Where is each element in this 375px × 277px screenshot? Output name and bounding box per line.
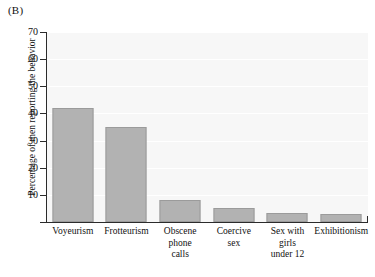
y-axis-tick-label: 30	[0, 136, 38, 146]
bar-slot	[46, 32, 100, 222]
bar[interactable]	[321, 214, 362, 222]
bar[interactable]	[267, 213, 308, 223]
bar-slot	[207, 32, 261, 222]
x-axis-tick-label: Frotteurism	[100, 226, 154, 238]
bar-slot	[261, 32, 315, 222]
figure-panel-b: (B) Percentage of men reporting the beha…	[0, 0, 375, 277]
y-axis-tick-label: 70	[0, 27, 38, 37]
bar-slot	[314, 32, 368, 222]
y-axis-tick-label: 10	[0, 190, 38, 200]
x-axis-tick-label: Obscenephonecalls	[153, 226, 207, 261]
x-axis-labels: VoyeurismFrotteurismObscenephonecallsCoe…	[46, 226, 368, 276]
y-axis-tick-label: 40	[0, 108, 38, 118]
bar[interactable]	[52, 108, 93, 222]
y-axis-tick-label: 60	[0, 54, 38, 64]
x-axis-tick-label: Sex withgirlsunder 12	[261, 226, 315, 261]
x-axis-tick-label: Coercivesex	[207, 226, 261, 249]
bar-slot	[100, 32, 154, 222]
x-axis-tick-label: Voyeurism	[46, 226, 100, 238]
y-axis-tick-label: 20	[0, 163, 38, 173]
bar[interactable]	[106, 127, 147, 222]
bar[interactable]	[160, 200, 201, 222]
bar[interactable]	[213, 208, 254, 222]
x-axis-line	[46, 222, 368, 223]
panel-label: (B)	[8, 4, 23, 16]
x-axis-tick-label: Exhibitionism	[314, 226, 368, 238]
bar-slot	[153, 32, 207, 222]
y-axis-tick-label: 50	[0, 81, 38, 91]
y-axis-tick	[40, 222, 46, 223]
bar-series	[46, 32, 368, 222]
